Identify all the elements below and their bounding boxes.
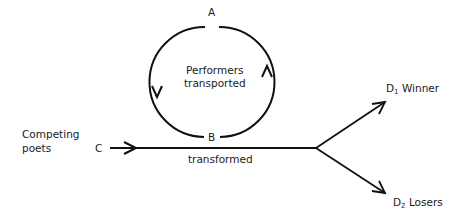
node-c-label: C [95,142,102,154]
d1-subscript: 1 [394,88,398,96]
losers-branch [316,148,385,193]
input-label-line2: poets [22,142,51,154]
diagram-canvas [0,0,461,217]
cycle-label-line2: transported [184,77,246,89]
node-b-label: B [208,131,215,143]
node-d2-label: D2 Losers [393,196,443,212]
d2-text: Losers [409,196,443,208]
d2-subscript: 2 [401,202,405,210]
node-d1-label: D1 Winner [386,82,439,98]
arrow-up-icon [262,66,272,77]
winner-branch [316,102,385,148]
arrow-down-icon [152,86,162,97]
transformed-label: transformed [188,153,253,165]
d1-letter: D [386,82,394,94]
input-label-line1: Competing [22,128,79,140]
d1-text: Winner [402,82,439,94]
cycle-label-line1: Performers [186,64,243,76]
node-a-label: A [208,6,215,18]
d2-letter: D [393,196,401,208]
